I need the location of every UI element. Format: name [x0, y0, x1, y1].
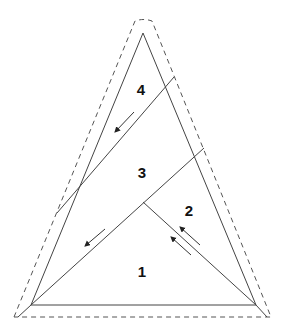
fold-line-3-2 [31, 148, 204, 305]
fold-line-4-3 [57, 77, 174, 213]
arrow-region-4-icon [115, 112, 134, 132]
corner-connector-left [18, 305, 31, 317]
corner-connector-right [256, 305, 267, 317]
arrow-region-2b-icon [171, 237, 191, 255]
fold-line-2-1 [143, 202, 256, 305]
arrow-region-2a-icon [180, 227, 200, 245]
region-label-2: 2 [185, 203, 193, 218]
arrow-region-3-icon [85, 229, 105, 246]
direction-arrows [85, 112, 200, 255]
region-label-3: 3 [138, 165, 146, 180]
region-label-1: 1 [138, 264, 146, 279]
region-label-4: 4 [137, 82, 145, 97]
